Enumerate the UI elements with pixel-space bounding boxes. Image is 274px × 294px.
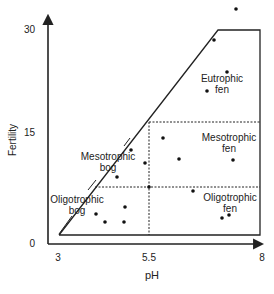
y-tick-0: 0 — [29, 238, 35, 249]
svg-text:Mesotrophic: Mesotrophic — [202, 132, 256, 143]
data-point — [177, 157, 181, 161]
svg-text:bog: bog — [100, 162, 117, 173]
svg-text:fen: fen — [215, 84, 229, 95]
label-mesotrophic-bog: Mesotrophic bog — [81, 151, 135, 173]
trophic-diagram: 30 15 0 3 5.5 8 pH Fertility Eutrophic f… — [0, 0, 274, 294]
data-point — [147, 185, 151, 189]
y-tick-30: 30 — [24, 24, 36, 35]
svg-text:bog: bog — [69, 205, 86, 216]
svg-text:fen: fen — [223, 203, 237, 214]
data-point — [205, 89, 209, 93]
data-point — [115, 175, 119, 179]
data-point — [227, 213, 231, 217]
label-oligotrophic-fen: Oligotrophic fen — [203, 192, 256, 214]
svg-text:Eutrophic: Eutrophic — [201, 73, 243, 84]
data-point — [123, 205, 127, 209]
x-tick-5-5: 5.5 — [142, 252, 156, 263]
svg-text:fen: fen — [222, 143, 236, 154]
data-point — [129, 148, 133, 152]
leader-oligotrophic-bog-2 — [59, 216, 72, 234]
data-point — [103, 220, 107, 224]
y-tick-15: 15 — [24, 127, 36, 138]
data-point — [234, 7, 238, 11]
label-mesotrophic-fen: Mesotrophic fen — [202, 132, 256, 154]
svg-text:Mesotrophic: Mesotrophic — [81, 151, 135, 162]
x-tick-3: 3 — [55, 252, 61, 263]
data-point — [143, 161, 147, 165]
y-axis-label: Fertility — [7, 124, 18, 156]
data-point — [161, 136, 165, 140]
data-point — [220, 216, 224, 220]
data-point — [191, 189, 195, 193]
svg-text:Oligotrophic: Oligotrophic — [203, 192, 256, 203]
svg-text:Oligotrophic: Oligotrophic — [50, 194, 103, 205]
data-point — [122, 220, 126, 224]
data-point — [225, 70, 229, 74]
data-point — [94, 212, 98, 216]
data-point — [231, 158, 235, 162]
data-point — [212, 38, 216, 42]
x-tick-8: 8 — [259, 252, 265, 263]
x-axis-label: pH — [145, 269, 159, 281]
